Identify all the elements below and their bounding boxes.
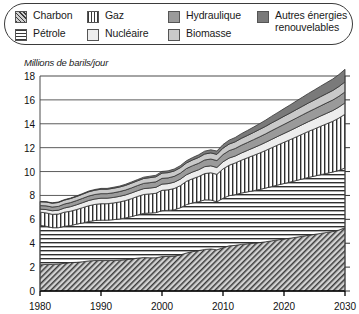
x-axis-tick-labels: 198019902000201020202030 <box>29 301 357 312</box>
svg-text:14: 14 <box>24 119 36 130</box>
svg-text:2000: 2000 <box>151 301 174 312</box>
legend-item-gaz: Gaz <box>87 10 124 23</box>
svg-text:2020: 2020 <box>273 301 296 312</box>
svg-text:10: 10 <box>24 167 36 178</box>
autres-swatch-icon <box>257 11 269 23</box>
legend-item-autres: Autres énergies renouvelables <box>257 10 347 33</box>
gaz-swatch-icon <box>87 11 99 23</box>
legend-label-charbon: Charbon <box>33 10 73 22</box>
legend-item-charbon: Charbon <box>15 10 73 23</box>
svg-text:4: 4 <box>29 238 35 249</box>
svg-text:2030: 2030 <box>334 301 357 312</box>
legend-label-gaz: Gaz <box>105 10 124 22</box>
chart-figure: Charbon Pétrole Gaz Nucléaire Hydrau <box>0 0 359 314</box>
svg-text:12: 12 <box>24 143 36 154</box>
chart-series-areas <box>40 69 345 291</box>
svg-text:16: 16 <box>24 95 36 106</box>
hydraulique-swatch-icon <box>168 11 180 23</box>
legend-item-nucleaire: Nucléaire <box>87 28 148 41</box>
charbon-swatch-icon <box>15 11 27 23</box>
legend-item-petrole: Pétrole <box>15 28 66 41</box>
svg-text:18: 18 <box>24 71 36 82</box>
nucleaire-swatch-icon <box>87 29 99 41</box>
svg-text:1990: 1990 <box>90 301 113 312</box>
svg-text:0: 0 <box>29 286 35 297</box>
legend-label-hydraulique: Hydraulique <box>186 10 241 22</box>
chart-plot-region: Millions de barils/jour 0246810121 <box>0 46 359 314</box>
petrole-swatch-icon <box>15 29 27 41</box>
y-axis-tick-labels: 024681012141618 <box>24 71 36 297</box>
svg-text:2: 2 <box>29 262 35 273</box>
legend-label-petrole: Pétrole <box>33 28 66 40</box>
legend-item-biomasse: Biomasse <box>168 28 231 41</box>
svg-text:6: 6 <box>29 214 35 225</box>
svg-text:8: 8 <box>29 190 35 201</box>
svg-text:1980: 1980 <box>29 301 52 312</box>
stacked-area-chart: 024681012141618 198019902000201020202030 <box>0 46 359 314</box>
legend-label-biomasse: Biomasse <box>186 28 231 40</box>
legend-label-autres: Autres énergies renouvelables <box>275 10 347 33</box>
chart-legend: Charbon Pétrole Gaz Nucléaire Hydrau <box>4 3 353 45</box>
legend-item-hydraulique: Hydraulique <box>168 10 241 23</box>
svg-text:2010: 2010 <box>212 301 235 312</box>
legend-label-nucleaire: Nucléaire <box>105 28 148 40</box>
biomasse-swatch-icon <box>168 29 180 41</box>
